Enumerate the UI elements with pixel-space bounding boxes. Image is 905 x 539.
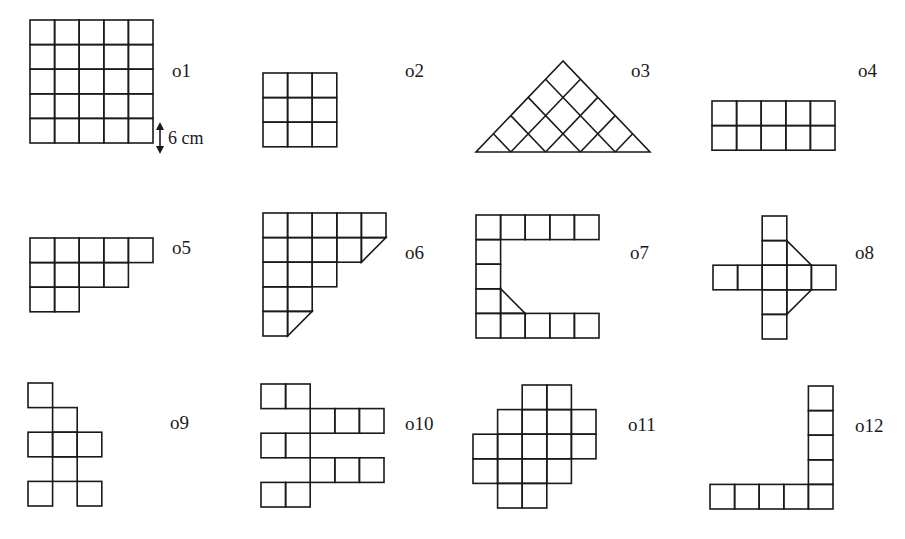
grid-cell bbox=[337, 213, 362, 238]
grid-cell bbox=[128, 238, 153, 263]
triangle-cell bbox=[787, 241, 812, 266]
grid-cell bbox=[501, 215, 526, 240]
grid-cell bbox=[128, 45, 153, 70]
shape-o5: o5 bbox=[30, 237, 191, 312]
shape-label: o10 bbox=[405, 413, 434, 434]
triangle-cell bbox=[501, 289, 526, 314]
grid-cell bbox=[312, 213, 337, 238]
grid-cell bbox=[810, 101, 835, 126]
grid-cell bbox=[522, 459, 547, 484]
shape-o1: o1 bbox=[30, 20, 191, 143]
grid-cell bbox=[263, 262, 288, 287]
grid-cell bbox=[498, 483, 523, 508]
grid-cell bbox=[104, 69, 129, 94]
grid-cell bbox=[312, 73, 337, 98]
grid-cell bbox=[104, 94, 129, 119]
grid-cell bbox=[738, 265, 763, 290]
grid-cell bbox=[261, 384, 286, 409]
grid-cell bbox=[476, 289, 501, 314]
grid-cell bbox=[808, 460, 833, 485]
grid-cell bbox=[571, 410, 596, 435]
grid-cell bbox=[312, 98, 337, 123]
grid-cell bbox=[547, 410, 572, 435]
grid-cell bbox=[762, 290, 787, 315]
grid-cell bbox=[128, 94, 153, 119]
grid-cell bbox=[288, 98, 313, 123]
grid-cell bbox=[337, 238, 362, 263]
grid-cell bbox=[335, 458, 360, 483]
grid-cell bbox=[128, 20, 153, 45]
shape-o10: o10 bbox=[261, 384, 434, 507]
grid-cell bbox=[359, 458, 384, 483]
dimension-marker: 6 cm bbox=[156, 122, 204, 154]
grid-cell bbox=[55, 45, 80, 70]
shape-label: o8 bbox=[855, 242, 874, 263]
grid-cell bbox=[263, 287, 288, 312]
grid-cell bbox=[335, 409, 360, 434]
grid-cell bbox=[476, 264, 501, 289]
triangle-cell bbox=[787, 290, 812, 315]
shape-o4: o4 bbox=[712, 60, 878, 150]
grid-cell bbox=[128, 118, 153, 143]
grid-cell bbox=[712, 126, 737, 151]
grid-cell bbox=[310, 409, 335, 434]
arrow-up-icon bbox=[156, 122, 164, 130]
grid-cell bbox=[810, 126, 835, 151]
grid-cell bbox=[761, 126, 786, 151]
grid-cell bbox=[547, 434, 572, 459]
grid-cell bbox=[712, 101, 737, 126]
grid-cell bbox=[288, 238, 313, 263]
shapes-layer: o1o2o3o4o5o6o7o8o9o10o11o12 bbox=[28, 20, 884, 509]
arrow-down-icon bbox=[156, 146, 164, 154]
grid-cell bbox=[808, 386, 833, 411]
grid-cell bbox=[361, 213, 386, 238]
grid-cell bbox=[263, 213, 288, 238]
grid-cell bbox=[30, 69, 55, 94]
grid-cell bbox=[737, 126, 762, 151]
grid-cell bbox=[784, 484, 809, 509]
grid-cell bbox=[55, 238, 80, 263]
grid-cell bbox=[77, 481, 102, 506]
grid-cell bbox=[522, 434, 547, 459]
grid-cell bbox=[476, 240, 501, 265]
grid-cell bbox=[53, 457, 78, 482]
grid-cell bbox=[550, 215, 575, 240]
grid-cell bbox=[761, 101, 786, 126]
shape-label: o12 bbox=[855, 415, 884, 436]
grid-cell bbox=[77, 432, 102, 457]
grid-cell bbox=[522, 410, 547, 435]
shape-o3: o3 bbox=[476, 60, 650, 152]
grid-cell bbox=[288, 122, 313, 147]
grid-cell bbox=[522, 483, 547, 508]
grid-cell bbox=[261, 482, 286, 507]
grid-cell bbox=[762, 314, 787, 339]
grid-cell bbox=[312, 262, 337, 287]
grid-cell bbox=[498, 410, 523, 435]
grid-cell bbox=[30, 20, 55, 45]
grid-cell bbox=[263, 238, 288, 263]
grid-cell bbox=[55, 263, 80, 288]
grid-cell bbox=[288, 262, 313, 287]
grid-cell bbox=[263, 122, 288, 147]
triangle-cell bbox=[361, 238, 386, 263]
grid-cell bbox=[547, 459, 572, 484]
grid-cell bbox=[476, 215, 501, 240]
shape-o6: o6 bbox=[263, 213, 424, 336]
grid-cell bbox=[30, 263, 55, 288]
grid-cell bbox=[737, 101, 762, 126]
grid-cell bbox=[263, 311, 288, 336]
shape-o7: o7 bbox=[476, 215, 649, 338]
grid-cell bbox=[55, 287, 80, 312]
grid-cell bbox=[525, 215, 550, 240]
grid-cell bbox=[310, 458, 335, 483]
grid-cell bbox=[498, 459, 523, 484]
grid-cell bbox=[79, 20, 104, 45]
grid-cell bbox=[359, 409, 384, 434]
grid-cell bbox=[713, 265, 738, 290]
grid-cell bbox=[288, 213, 313, 238]
triangle-outline bbox=[476, 61, 650, 152]
grid-line bbox=[493, 134, 510, 152]
grid-cell bbox=[286, 433, 311, 458]
grid-cell bbox=[79, 45, 104, 70]
grid-cell bbox=[811, 265, 836, 290]
